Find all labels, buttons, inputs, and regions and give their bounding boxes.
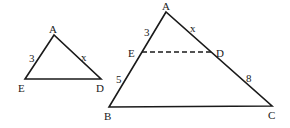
small-side-ad-label: x [81,51,87,63]
large-triangle: A B C E D 3 5 x 8 [104,0,275,122]
large-vertex-b: B [104,110,111,122]
large-vertex-d: D [216,47,224,59]
large-vertex-a: A [162,0,170,12]
large-side-ae-label: 3 [144,26,150,38]
large-vertex-e: E [128,47,135,59]
small-triangle: A E D 3 x [18,23,104,94]
small-vertex-e: E [18,82,25,94]
small-vertex-d: D [96,82,104,94]
large-side-dc-label: 8 [246,72,252,84]
small-vertex-a: A [49,23,57,35]
large-vertex-c: C [268,109,275,121]
small-side-ae-label: 3 [29,52,35,64]
large-side-ad-label: x [190,22,196,34]
large-side-eb-label: 5 [116,73,122,85]
similar-triangles-diagram: A E D 3 x A B C E D 3 5 x 8 [0,0,290,128]
small-triangle-outline [25,35,101,79]
